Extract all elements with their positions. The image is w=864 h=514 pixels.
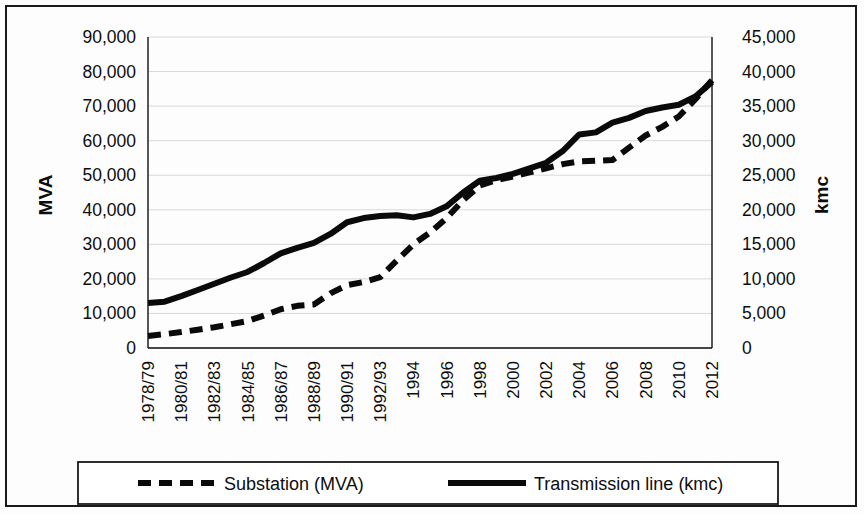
x-tick-label: 1980/81	[172, 361, 191, 422]
y-tick-label: 30,000	[82, 234, 136, 254]
x-tick-label: 1982/83	[205, 361, 224, 422]
axis-lines	[148, 37, 712, 348]
x-tick-label: 1986/87	[272, 361, 291, 422]
y-tick-label: 80,000	[82, 62, 136, 82]
series-line-transmission-line	[148, 82, 712, 303]
y-tick-label: 50,000	[82, 165, 136, 185]
secondary-y-axis-tick-labels: 45,00040,00035,00030,00025,00020,00015,0…	[742, 27, 796, 358]
chart-legend: Substation (MVA)Transmission line (kmc)	[78, 462, 778, 504]
secondary-y-tick-label: 5,000	[742, 303, 786, 323]
x-tick-label: 1984/85	[239, 361, 258, 422]
secondary-y-tick-label: 25,000	[742, 165, 796, 185]
data-series	[148, 80, 712, 336]
line-chart: 90,00080,00070,00060,00050,00040,00030,0…	[0, 0, 864, 514]
x-tick-label: 1992/93	[371, 361, 390, 422]
y-axis-title: MVA	[35, 174, 56, 215]
y-tick-label: 0	[126, 338, 136, 358]
legend-label-transmission-line: Transmission line (kmc)	[534, 474, 723, 494]
secondary-y-tick-label: 0	[742, 338, 752, 358]
chart-figure: 90,00080,00070,00060,00050,00040,00030,0…	[0, 0, 864, 514]
y-tick-label: 10,000	[82, 303, 136, 323]
x-axis-tick-labels: 1978/791980/811982/831984/851986/871988/…	[139, 361, 722, 422]
x-tick-label: 1990/91	[338, 361, 357, 422]
y-tick-label: 60,000	[82, 131, 136, 151]
x-tick-label: 2008	[637, 361, 656, 399]
legend-label-substation: Substation (MVA)	[224, 474, 364, 494]
x-tick-label: 1996	[438, 361, 457, 399]
gridlines	[148, 37, 712, 348]
secondary-y-tick-label: 20,000	[742, 200, 796, 220]
y-tick-label: 70,000	[82, 96, 136, 116]
x-tick-label: 2006	[603, 361, 622, 399]
secondary-y-tick-label: 15,000	[742, 234, 796, 254]
secondary-y-axis-title: kmc	[811, 176, 832, 214]
y-tick-label: 40,000	[82, 200, 136, 220]
secondary-y-tick-label: 30,000	[742, 131, 796, 151]
x-tick-label: 2000	[504, 361, 523, 399]
secondary-y-tick-label: 40,000	[742, 62, 796, 82]
secondary-y-tick-label: 45,000	[742, 27, 796, 47]
y-tick-label: 20,000	[82, 269, 136, 289]
x-tick-label: 2010	[670, 361, 689, 399]
x-tick-label: 1998	[471, 361, 490, 399]
secondary-y-tick-label: 10,000	[742, 269, 796, 289]
x-tick-label: 1978/79	[139, 361, 158, 422]
secondary-y-tick-label: 35,000	[742, 96, 796, 116]
x-tick-label: 2002	[537, 361, 556, 399]
y-axis-tick-labels: 90,00080,00070,00060,00050,00040,00030,0…	[82, 27, 136, 358]
x-tick-label: 1988/89	[305, 361, 324, 422]
x-tick-label: 2004	[570, 361, 589, 399]
y-tick-label: 90,000	[82, 27, 136, 47]
x-tick-label: 2012	[703, 361, 722, 399]
x-tick-label: 1994	[404, 361, 423, 399]
